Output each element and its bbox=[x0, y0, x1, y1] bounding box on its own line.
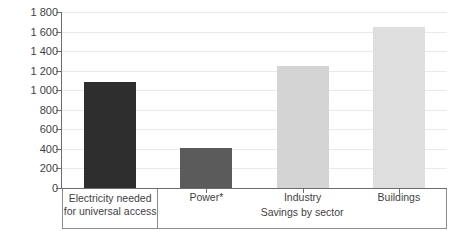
bar[interactable] bbox=[84, 82, 136, 188]
y-tick-label: 200 bbox=[18, 162, 58, 174]
y-tick-mark bbox=[56, 90, 61, 91]
y-tick-label: 1 400 bbox=[18, 45, 58, 57]
bar[interactable] bbox=[180, 148, 232, 188]
y-tick-label: 1 000 bbox=[18, 84, 58, 96]
category-box-universal-access[interactable]: Electricity needed for universal access bbox=[62, 189, 158, 229]
x-axis-title: Savings by sector bbox=[158, 206, 446, 218]
x-tick-mark bbox=[206, 189, 207, 193]
y-tick-mark bbox=[56, 129, 61, 130]
y-tick-label: 1 800 bbox=[18, 6, 58, 18]
y-tick-mark bbox=[56, 71, 61, 72]
bar[interactable] bbox=[373, 27, 425, 188]
y-tick-mark bbox=[56, 51, 61, 52]
y-tick-label: 600 bbox=[18, 123, 58, 135]
x-tick-mark bbox=[399, 189, 400, 193]
bar[interactable] bbox=[277, 66, 329, 188]
bar-chart: TWh 02004006008001 0001 2001 4001 6001 8… bbox=[0, 0, 467, 231]
category-label-row: Electricity needed for universal accessP… bbox=[62, 189, 447, 229]
y-tick-mark bbox=[56, 12, 61, 13]
category-box-savings-by-sector[interactable]: Power*IndustryBuildingsSavings by sector bbox=[158, 189, 447, 229]
y-tick-label: 1 600 bbox=[18, 26, 58, 38]
y-tick-label: 800 bbox=[18, 104, 58, 116]
gridline bbox=[62, 12, 447, 13]
y-axis-tick-labels: 02004006008001 0001 2001 4001 6001 800 bbox=[18, 0, 58, 188]
plot-area bbox=[62, 12, 447, 188]
category-label: Electricity needed for universal access bbox=[64, 192, 157, 218]
y-tick-label: 0 bbox=[18, 182, 58, 194]
y-tick-mark bbox=[56, 188, 61, 189]
y-tick-mark bbox=[56, 149, 61, 150]
y-tick-mark bbox=[56, 32, 61, 33]
y-tick-mark bbox=[56, 168, 61, 169]
y-tick-mark bbox=[56, 110, 61, 111]
y-tick-label: 1 200 bbox=[18, 65, 58, 77]
y-tick-label: 400 bbox=[18, 143, 58, 155]
x-tick-mark bbox=[303, 189, 304, 193]
